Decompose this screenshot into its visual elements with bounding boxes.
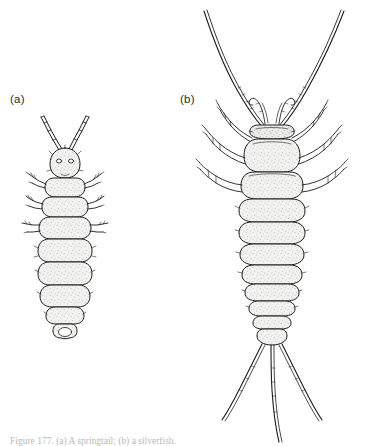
springtail-abdomen-segment-1	[38, 239, 92, 262]
silverfish-mesothorax	[241, 172, 303, 199]
springtail-abdomen-segment-2	[38, 262, 92, 285]
silverfish-leg-hind-left	[196, 159, 242, 192]
springtail-abdomen-segment-3	[40, 285, 90, 307]
springtail-leg-front-right	[84, 172, 104, 188]
silverfish-prothorax	[244, 139, 300, 172]
springtail-antenna-right	[69, 116, 89, 150]
silverfish-maxillary-palp-right	[276, 98, 295, 124]
springtail-leg-middle-right	[87, 195, 104, 209]
silverfish-caudal-filament-median	[271, 345, 282, 442]
springtail-leg-middle-left	[26, 195, 43, 209]
silverfish-abdomen-segment-3	[240, 244, 304, 265]
springtail-thorax-segment-3	[39, 217, 91, 239]
silverfish-abdomen-segment-6	[249, 301, 295, 316]
springtail-thorax-segment-1	[45, 178, 85, 197]
springtail-leg-front-left	[26, 172, 46, 188]
springtail-illustration	[22, 116, 108, 339]
silverfish-antenna-right	[278, 10, 344, 128]
silverfish-abdomen-terminal-segment	[257, 329, 287, 345]
silverfish-leg-middle-left	[202, 125, 245, 164]
figure-caption: Figure 177. (a) A springtail; (b) a silv…	[10, 437, 176, 446]
springtail-eye-right	[68, 159, 73, 163]
silverfish-abdomen-segment-5	[245, 284, 299, 301]
figure-illustration-canvas	[0, 0, 370, 446]
silverfish-cercus-right	[279, 344, 322, 421]
springtail-eye-left	[56, 159, 61, 163]
silverfish-leg-hind-right	[302, 159, 348, 192]
springtail-thorax-segment-2	[42, 197, 88, 217]
springtail-abdomen-segment-4	[46, 307, 84, 324]
figure-page: (a) (b) Figure 177. (a) A springtail; (b…	[0, 0, 370, 446]
springtail-leg-hind-left	[22, 221, 40, 233]
springtail-abdomen	[34, 239, 96, 339]
figure-caption-strip: Figure 177. (a) A springtail; (b) a silv…	[0, 437, 370, 446]
springtail-leg-hind-right	[90, 221, 108, 233]
silverfish-maxillary-palp-left	[249, 98, 268, 124]
panel-label-a: (a)	[10, 94, 25, 106]
springtail-antenna-left	[41, 116, 62, 150]
silverfish-antenna-left	[204, 10, 266, 128]
panel-label-b: (b)	[180, 94, 195, 106]
silverfish-abdomen	[235, 199, 309, 345]
silverfish-abdomen-segment-7	[253, 316, 291, 329]
silverfish-leg-middle-right	[299, 125, 342, 164]
silverfish-head	[249, 125, 295, 139]
silverfish-illustration	[196, 10, 348, 442]
silverfish-abdomen-segment-2	[239, 222, 305, 244]
silverfish-abdomen-segment-4	[242, 265, 302, 284]
silverfish-abdomen-segment-1	[239, 199, 305, 222]
silverfish-cercus-left	[222, 344, 265, 421]
springtail-head	[47, 145, 83, 178]
